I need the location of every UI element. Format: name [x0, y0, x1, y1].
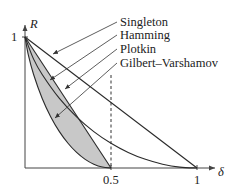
x-tick-label-1: 1	[194, 173, 200, 187]
label-gilbert-varshamov: Gilbert–Varshamov	[120, 56, 219, 70]
x-tick-label-half: 0.5	[103, 173, 119, 187]
leader-hamming	[50, 35, 117, 80]
plotkin-curve	[25, 37, 111, 168]
y-tick-label-1: 1	[11, 30, 17, 44]
x-axis-label: δ	[218, 165, 224, 179]
label-plotkin: Plotkin	[120, 42, 157, 56]
leader-singleton	[53, 22, 117, 54]
label-singleton: Singleton	[120, 15, 169, 29]
leader-gv	[55, 63, 117, 118]
label-hamming: Hamming	[120, 28, 171, 42]
bounds-chart: Singleton Hamming Plotkin Gilbert–Varsha…	[0, 0, 233, 190]
y-axis-label: R	[29, 17, 38, 31]
leader-plotkin	[65, 49, 117, 89]
